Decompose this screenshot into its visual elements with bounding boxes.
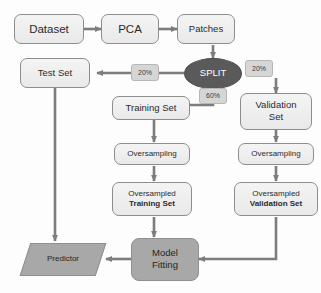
node-split-label: SPLIT: [200, 68, 226, 79]
edge-oversampled-validation-to-model-fitting: [199, 217, 276, 259]
node-test-set[interactable]: Test Set: [20, 58, 90, 88]
edge-label-split-to-test-set-text: 20%: [138, 69, 152, 77]
edge-label-split-to-training-set: 60%: [199, 88, 227, 104]
node-test-set-label: Test Set: [38, 68, 72, 79]
node-oversampled-training-set-label-line1: Oversampled: [128, 190, 176, 199]
node-pca[interactable]: PCA: [101, 14, 159, 44]
node-oversampled-validation-set[interactable]: Oversampled Validation Set: [234, 182, 318, 216]
node-predictor[interactable]: Predictor: [20, 243, 107, 276]
node-dataset-label: Dataset: [29, 23, 69, 36]
edge-label-split-to-validation-set-text: 20%: [252, 65, 266, 73]
node-training-set-label: Training Set: [126, 103, 177, 114]
node-model-fitting-label-line2: Fitting: [152, 260, 178, 271]
node-model-fitting[interactable]: Model Fitting: [131, 238, 199, 281]
node-oversampled-validation-set-label-line2: Validation Set: [250, 200, 302, 209]
node-pca-label: PCA: [118, 23, 142, 36]
node-oversampling-validation-label: Oversampling: [251, 150, 300, 159]
node-patches-label: Patches: [189, 24, 223, 35]
node-model-fitting-label-line1: Model: [152, 248, 178, 259]
node-validation-set-label-line2: Set: [269, 112, 283, 123]
node-oversampled-training-set[interactable]: Oversampled Training Set: [112, 182, 192, 216]
node-dataset[interactable]: Dataset: [14, 14, 84, 44]
edge-label-split-to-validation-set: 20%: [245, 60, 273, 77]
node-oversampled-training-set-label-line2: Training Set: [129, 200, 175, 209]
node-oversampled-validation-set-label-line1: Oversampled: [252, 190, 300, 199]
edge-label-split-to-test-set: 20%: [131, 64, 159, 81]
node-oversampling-training[interactable]: Oversampling: [114, 143, 190, 165]
node-oversampling-training-label: Oversampling: [127, 150, 176, 159]
node-split[interactable]: SPLIT: [184, 58, 242, 89]
node-validation-set[interactable]: Validation Set: [240, 93, 312, 130]
node-training-set[interactable]: Training Set: [112, 96, 190, 120]
node-validation-set-label-line1: Validation: [255, 100, 296, 111]
node-patches[interactable]: Patches: [177, 14, 235, 44]
flowchart-canvas: Dataset PCA Patches SPLIT Test Set Train…: [0, 0, 321, 293]
edge-label-split-to-training-set-text: 60%: [206, 92, 220, 100]
node-oversampling-validation[interactable]: Oversampling: [238, 143, 314, 165]
node-predictor-label: Predictor: [47, 255, 79, 264]
